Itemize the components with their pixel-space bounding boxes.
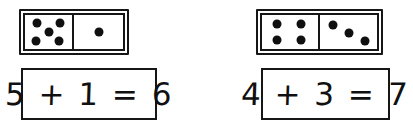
pip — [360, 37, 369, 46]
domino-tile-2 — [256, 9, 383, 55]
pip — [33, 19, 42, 28]
worksheet-canvas: 5 + 1 = 6 4 + 3 = 7 — [0, 0, 413, 134]
pip — [44, 28, 53, 37]
equation-box-1: 5 + 1 = 6 — [21, 68, 157, 120]
equation-box-2: 4 + 3 = 7 — [261, 68, 390, 120]
pip — [329, 20, 338, 29]
equation-text-1: 5 + 1 = 6 — [4, 79, 174, 110]
domino-half-right-1 — [74, 15, 123, 49]
pip — [345, 29, 354, 38]
equation-text-2: 4 + 3 = 7 — [241, 79, 411, 110]
pip — [297, 19, 306, 28]
domino-tile-1 — [19, 9, 129, 55]
pip — [94, 28, 103, 37]
pip — [32, 36, 41, 45]
pip — [272, 35, 281, 44]
pip — [297, 36, 306, 45]
pip — [54, 37, 63, 46]
pip — [272, 20, 281, 29]
domino-half-right-2 — [320, 15, 378, 49]
domino-inner-frame-2 — [260, 13, 379, 51]
domino-half-left-2 — [262, 15, 320, 49]
pip — [55, 19, 64, 28]
domino-half-left-1 — [25, 15, 74, 49]
domino-inner-frame-1 — [23, 13, 125, 51]
